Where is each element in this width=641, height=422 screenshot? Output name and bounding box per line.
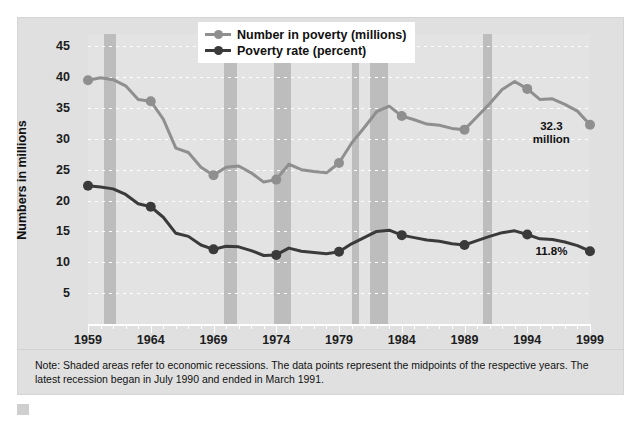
data-point	[460, 125, 470, 135]
data-point	[271, 175, 281, 185]
legend-marker-poverty-rate	[205, 45, 231, 56]
data-point	[334, 158, 344, 168]
data-point	[209, 170, 219, 180]
corner-mark	[17, 404, 29, 415]
data-point	[522, 230, 532, 240]
data-point	[522, 84, 532, 94]
note-separator	[17, 349, 624, 350]
legend-dot	[214, 46, 223, 55]
legend-label-number-in-poverty: Number in poverty (millions)	[237, 28, 406, 42]
data-point	[397, 111, 407, 121]
series-line	[88, 186, 590, 256]
legend-dot	[214, 30, 223, 39]
poverty-rate-end-label: 11.8%	[535, 245, 567, 258]
legend-label-poverty-rate: Poverty rate (percent)	[237, 44, 366, 58]
legend-item-poverty-rate: Poverty rate (percent)	[205, 43, 406, 58]
data-point	[146, 202, 156, 212]
data-point	[334, 247, 344, 257]
chart-note: Note: Shaded areas refer to economic rec…	[35, 358, 601, 386]
data-point	[460, 240, 470, 250]
number-in-poverty-end-label: 32.3 million	[533, 120, 570, 146]
chart-root: 45403530252015105 Numbers in millions 19…	[0, 0, 641, 422]
data-point	[397, 230, 407, 240]
series-poverty-rate	[83, 181, 595, 260]
legend-item-number-in-poverty: Number in poverty (millions)	[205, 27, 406, 42]
data-point	[146, 96, 156, 106]
legend-marker-number-in-poverty	[205, 29, 231, 40]
data-point	[585, 120, 595, 130]
data-point	[83, 75, 93, 85]
chart-legend: Number in poverty (millions) Poverty rat…	[198, 22, 415, 63]
series-number-in-poverty	[83, 75, 595, 184]
data-point	[209, 244, 219, 254]
data-point	[271, 250, 281, 260]
data-point	[83, 181, 93, 191]
data-point	[585, 246, 595, 256]
